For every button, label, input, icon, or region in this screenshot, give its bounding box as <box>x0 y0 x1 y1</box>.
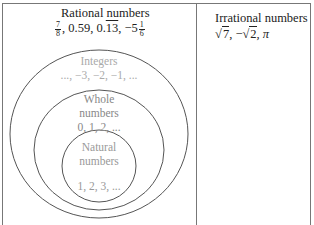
natural-examples: 1, 2, 3, ... <box>77 180 120 193</box>
whole-label-line1: Whole <box>84 93 115 106</box>
integers-label: Integers <box>80 55 117 68</box>
whole-examples: 0, 1, 2, ... <box>77 121 120 134</box>
venn-diagram <box>0 0 314 225</box>
natural-label-line2: numbers <box>79 155 119 168</box>
natural-label-line1: Natural <box>82 141 116 154</box>
integers-examples: ..., −3, −2, −1, ... <box>61 69 138 82</box>
whole-label-line2: numbers <box>79 107 119 120</box>
